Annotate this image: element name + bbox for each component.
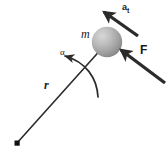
force-label: F: [140, 44, 147, 56]
mass-label: m: [81, 28, 90, 40]
mass-sphere: [92, 27, 122, 57]
pivot-point: [15, 141, 20, 146]
physics-diagram: m r α F at: [0, 0, 167, 155]
angular-acceleration-label: α: [60, 48, 65, 57]
tangential-acceleration-label: at: [122, 3, 129, 14]
radius-label: r: [44, 79, 49, 91]
angular-acceleration-arc: [65, 56, 98, 97]
radius-line: [17, 46, 104, 143]
diagram-canvas: [0, 0, 167, 155]
tangential-acceleration-subscript: t: [127, 7, 129, 14]
